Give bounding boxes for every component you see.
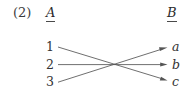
arrow-layer <box>0 0 189 97</box>
arrow-1-to-c-line <box>58 47 164 79</box>
arrow-2-to-b-head <box>160 63 167 67</box>
arrow-1-to-c <box>58 47 168 81</box>
arrow-3-to-a-head <box>159 47 168 51</box>
arrow-1-to-c-head <box>160 77 168 81</box>
arrow-3-to-a-line <box>58 49 164 83</box>
function-mapping-diagram: (2) A B 1 2 3 a b c <box>0 0 189 97</box>
